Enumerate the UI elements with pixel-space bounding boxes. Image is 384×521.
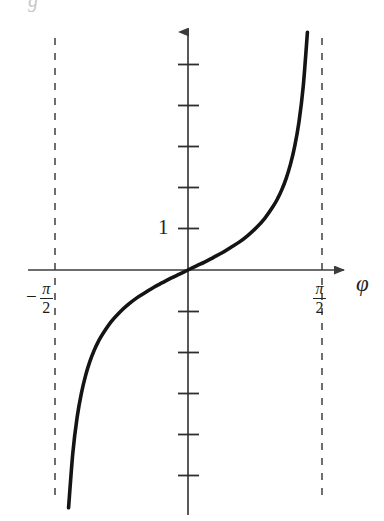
fraction-denominator: 2	[40, 300, 52, 316]
tangent-function-figure: g 1 φ − π 2 π 2	[0, 0, 384, 521]
right-asymptote-label: π 2	[313, 281, 326, 317]
left-asymptote-label: − π 2	[26, 281, 53, 317]
fraction-numerator: π	[40, 281, 52, 297]
fraction-pi-over-two: π 2	[313, 281, 326, 317]
plot-canvas	[0, 0, 384, 521]
y-tick-label-one: 1	[158, 217, 169, 238]
cropped-text-fragment: g	[28, 0, 38, 12]
fraction-numerator: π	[313, 281, 325, 297]
fraction-pi-over-two: π 2	[40, 281, 53, 317]
minus-sign: −	[26, 286, 37, 311]
fraction-denominator: 2	[314, 300, 326, 316]
x-axis-label-phi: φ	[356, 272, 369, 295]
